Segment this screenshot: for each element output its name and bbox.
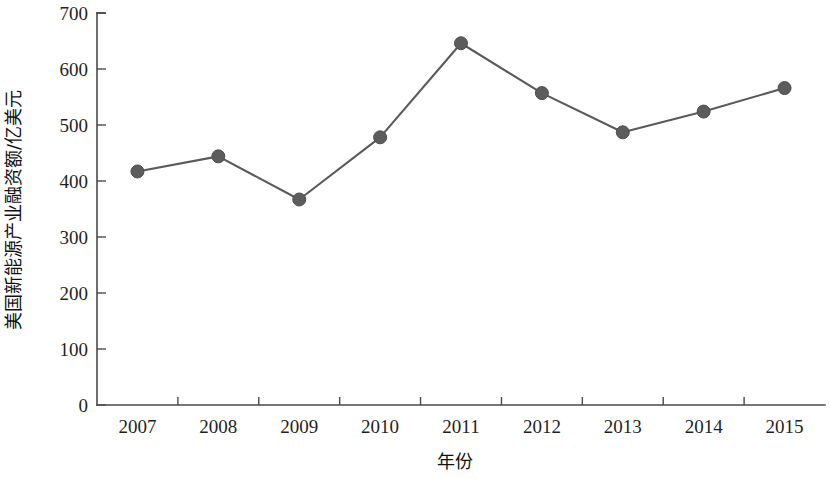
data-point-marker: [293, 193, 306, 206]
chart-container: 美国新能源产业融资额/亿美元 年份 0100200300400500600700…: [0, 0, 830, 478]
y-tick-label: 500: [60, 115, 89, 136]
x-tick-label: 2008: [199, 416, 237, 437]
x-tick-label: 2015: [766, 416, 804, 437]
data-point-marker: [131, 165, 144, 178]
x-tick-label: 2010: [361, 416, 399, 437]
x-tick-label: 2011: [442, 416, 479, 437]
y-axis-ticks: 0100200300400500600700: [60, 3, 107, 416]
x-tick-label: 2014: [685, 416, 724, 437]
data-point-marker: [616, 126, 629, 139]
y-tick-label: 700: [60, 3, 89, 24]
x-axis-ticks: 200720082009201020112012201320142015: [118, 397, 803, 437]
x-axis-title: 年份: [437, 451, 473, 472]
data-point-marker: [212, 150, 225, 163]
y-tick-label: 100: [60, 339, 89, 360]
data-point-marker: [374, 131, 387, 144]
x-tick-label: 2007: [118, 416, 156, 437]
y-axis-title: 美国新能源产业融资额/亿美元: [3, 90, 24, 330]
series-line: [137, 43, 784, 199]
x-tick-label: 2012: [523, 416, 561, 437]
y-tick-label: 200: [60, 283, 89, 304]
data-point-marker: [535, 87, 548, 100]
data-series: [131, 37, 791, 206]
x-tick-label: 2013: [604, 416, 642, 437]
y-tick-label: 0: [79, 395, 89, 416]
data-point-marker: [778, 82, 791, 95]
data-point-marker: [697, 105, 710, 118]
line-chart: 美国新能源产业融资额/亿美元 年份 0100200300400500600700…: [0, 0, 830, 478]
y-tick-label: 600: [60, 59, 89, 80]
x-tick-label: 2009: [280, 416, 318, 437]
y-tick-label: 300: [60, 227, 89, 248]
y-tick-label: 400: [60, 171, 89, 192]
data-point-marker: [455, 37, 468, 50]
